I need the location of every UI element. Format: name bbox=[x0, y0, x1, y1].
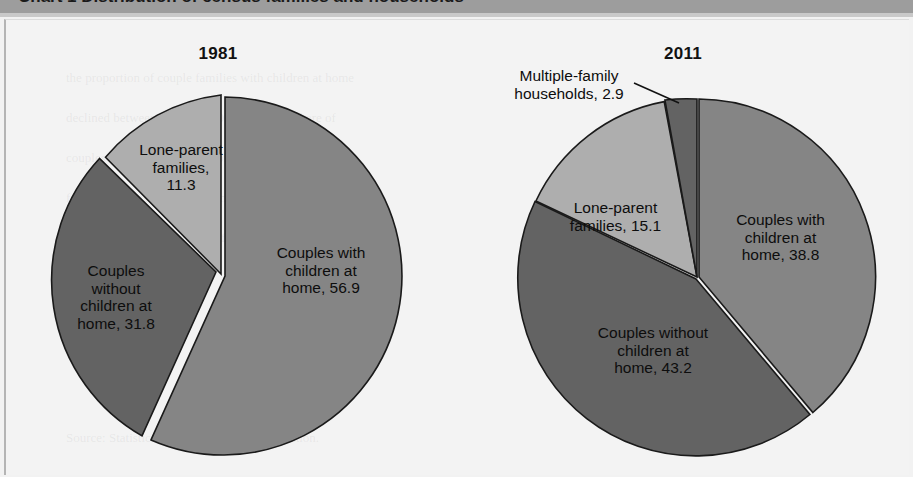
pie-chart-1981: 1981 Couples with children at home, 56.9… bbox=[8, 19, 458, 475]
pie-chart-2011: 2011 Multiple-family households, 2.9 Lon… bbox=[458, 19, 908, 475]
figure-page: Chart 1 Distribution of census families … bbox=[0, 0, 913, 477]
pie-label-multiple-family-2011: Multiple-family households, 2.9 bbox=[484, 67, 654, 103]
pie-svg-1981 bbox=[8, 19, 458, 475]
header-divider bbox=[0, 13, 913, 17]
page-header-band: Chart 1 Distribution of census families … bbox=[0, 0, 913, 13]
page-header-text: Chart 1 Distribution of census families … bbox=[18, 0, 464, 7]
